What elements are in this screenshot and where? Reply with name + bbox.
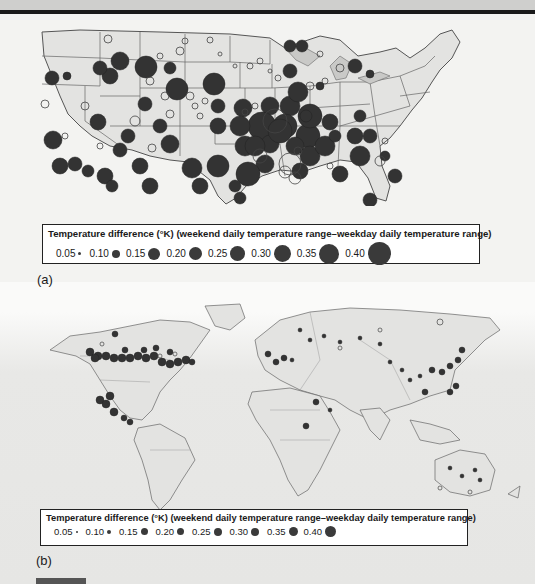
legend-item-0.20: 0.20 <box>166 247 207 260</box>
india <box>360 408 390 440</box>
africa <box>248 388 340 496</box>
legend-item-0.40: 0.40 <box>304 526 337 537</box>
legend-item-0.25: 0.25 <box>208 246 251 261</box>
legend-panel-b: Temperature difference (°K) (weekend dai… <box>40 509 468 546</box>
legend-item-0.15: 0.15 <box>119 526 156 537</box>
legend-panel-a: Temperature difference (°K) (weekend dai… <box>42 224 480 264</box>
legend-dot-icon <box>112 250 120 258</box>
legend-dot-icon <box>107 530 111 534</box>
legend-dot-icon <box>148 248 160 260</box>
legend-dot-icon <box>78 252 81 255</box>
legend-item-0.15: 0.15 <box>126 248 166 260</box>
legend-dot-icon <box>141 528 148 535</box>
legend-item-0.40: 0.40 <box>345 242 390 265</box>
south-america <box>134 424 195 510</box>
southeast-asia-islands <box>410 420 460 444</box>
legend-item-0.25: 0.25 <box>192 526 230 537</box>
legend-dot-icon <box>325 526 336 537</box>
us-map <box>40 26 500 206</box>
legend-item-0.20: 0.20 <box>156 526 193 537</box>
legend-dot-icon <box>319 244 339 264</box>
legend-dot-icon <box>76 531 78 533</box>
world-landmasses <box>50 304 520 510</box>
legend-item-0.10: 0.10 <box>86 526 120 537</box>
panel-label-a: (a) <box>37 272 53 287</box>
figure-caption-cutoff <box>36 578 86 584</box>
new-zealand <box>508 486 520 498</box>
legend-dot-icon <box>189 247 202 260</box>
legend-item-0.35: 0.35 <box>297 244 345 264</box>
legend-dot-icon <box>251 528 259 536</box>
legend-item-0.35: 0.35 <box>267 526 304 537</box>
legend-scale-b: 0.05 0.10 0.15 0.20 0.25 0.30 0.35 0.40 <box>54 526 462 537</box>
legend-title-a: Temperature difference (°K) (weekend dai… <box>48 228 474 239</box>
legend-item-0.30: 0.30 <box>230 526 268 537</box>
greenland <box>205 304 245 330</box>
legend-dot-icon <box>177 528 184 535</box>
legend-item-0.10: 0.10 <box>89 248 125 259</box>
world-map <box>30 300 530 510</box>
header-rule <box>0 10 535 14</box>
australia <box>435 450 495 496</box>
legend-title-b: Temperature difference (°K) (weekend dai… <box>46 513 462 523</box>
legend-item-0.05: 0.05 <box>56 248 89 259</box>
legend-dot-icon <box>230 246 245 261</box>
legend-dot-icon <box>289 527 298 536</box>
legend-item-0.05: 0.05 <box>54 526 86 537</box>
legend-dot-icon <box>274 245 291 262</box>
legend-item-0.30: 0.30 <box>251 245 296 262</box>
page-top-strip <box>0 0 535 10</box>
legend-dot-icon <box>368 242 391 265</box>
legend-dot-icon <box>214 528 222 536</box>
north-america <box>50 320 210 420</box>
panel-label-b: (b) <box>36 553 52 568</box>
legend-scale-a: 0.05 0.10 0.15 0.20 0.25 0.30 0.35 0.40 <box>56 242 474 265</box>
